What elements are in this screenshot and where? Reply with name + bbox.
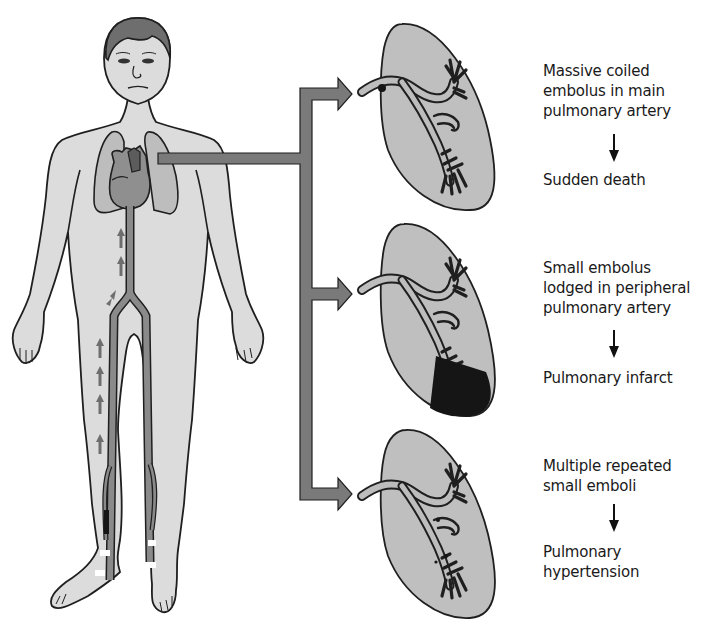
heart (109, 146, 149, 209)
caption-line: embolus in main (543, 81, 703, 101)
caption-line: Small embolus (543, 258, 703, 278)
caption-line: lodged in peripheral (543, 278, 703, 298)
outcome-small: Pulmonary infarct (543, 368, 672, 388)
outcome-line: hypertension (543, 562, 639, 582)
outcome-line: Sudden death (543, 170, 646, 190)
deep-vein-thrombus (104, 510, 109, 534)
caption-line: pulmonary artery (543, 298, 703, 318)
head (104, 18, 170, 104)
lung-panel-massive (362, 24, 494, 210)
down-arrow-icon (608, 504, 620, 532)
right-eye (142, 58, 154, 63)
outcome-line: Pulmonary infarct (543, 368, 672, 388)
human-body (13, 18, 264, 612)
massive-embolus (378, 84, 386, 92)
lung-panel-small (362, 224, 495, 417)
outcome-line: Pulmonary (543, 542, 639, 562)
outcome-multiple: Pulmonary hypertension (543, 542, 639, 582)
left-eye (118, 58, 130, 63)
caption-line: small emboli (543, 476, 703, 496)
down-arrow-icon (608, 134, 620, 162)
caption-line: Massive coiled (543, 61, 703, 81)
cause-multiple: Multiple repeated small emboli (543, 456, 703, 496)
caption-line: pulmonary artery (543, 101, 703, 121)
cause-massive: Massive coiled embolus in main pulmonary… (543, 61, 703, 121)
caption-line: Multiple repeated (543, 456, 703, 476)
outcome-massive: Sudden death (543, 170, 646, 190)
down-arrow-icon (608, 330, 620, 358)
lung-panel-multiple (362, 430, 495, 618)
cause-small: Small embolus lodged in peripheral pulmo… (543, 258, 703, 318)
